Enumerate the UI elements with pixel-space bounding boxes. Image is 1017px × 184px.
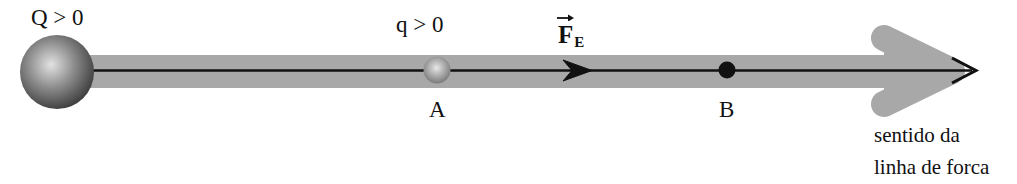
vector-arrow-icon — [557, 13, 574, 21]
source-charge-label: Q > 0 — [31, 6, 84, 29]
force-vector-label: F E — [558, 22, 584, 50]
test-charge-sphere — [424, 57, 451, 84]
force-symbol-subscript: E — [574, 34, 584, 50]
point-a-label: A — [429, 98, 446, 121]
field-direction-caption-line1: sentido da — [874, 125, 960, 146]
test-charge-label: q > 0 — [396, 13, 443, 36]
point-b-dot — [719, 62, 736, 79]
force-vector-symbol: F — [558, 22, 573, 47]
field-direction-caption-line2: linha de forca — [874, 157, 989, 178]
electric-field-line-figure — [0, 0, 1017, 184]
diagram-canvas: Q > 0 q > 0 A B F E sentido da linha de … — [0, 0, 1017, 184]
point-b-label: B — [719, 98, 734, 121]
source-charge-sphere — [20, 35, 94, 109]
force-symbol-letter: F — [558, 21, 573, 48]
